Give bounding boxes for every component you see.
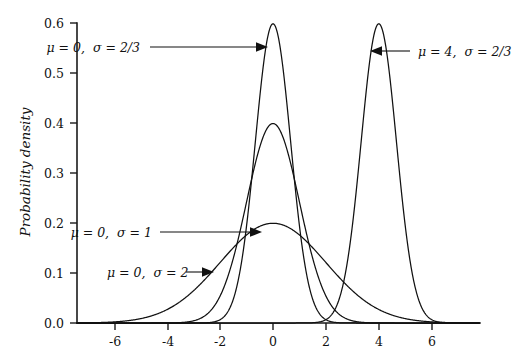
y-tick-label-0.1: 0.1 xyxy=(44,266,64,281)
annotation-label-mu0-sigma-2: μ = 0, σ = 2 xyxy=(107,265,188,280)
annotation-label-mu0-sigma-1: μ = 0, σ = 1 xyxy=(71,225,152,240)
annot-sigma-text-2: σ = 2/3 xyxy=(464,44,511,59)
annot-sigma-text-4: σ = 2 xyxy=(153,265,188,280)
annot-mu-text-3: μ = 0, xyxy=(71,225,109,240)
annotation-label-mu4-sigma-two-thirds: μ = 4, σ = 2/3 xyxy=(418,44,512,59)
annot-mu-text-1: μ = 0, xyxy=(46,40,84,55)
annot-mu-text-4: μ = 0, xyxy=(107,265,145,280)
y-tick-label-0.6: 0.6 xyxy=(44,16,64,31)
annot-sigma-text-1: σ = 2/3 xyxy=(93,40,140,55)
y-tick-label-0.4: 0.4 xyxy=(44,116,64,131)
annotation-label-mu0-sigma-two-thirds: μ = 0, σ = 2/3 xyxy=(46,40,140,55)
chart-svg: 0.6 0.5 0.4 0.3 0.2 0.1 0.0 Probability … xyxy=(0,0,514,358)
y-tick-label-0.3: 0.3 xyxy=(44,166,64,181)
x-tick-label--4: -4 xyxy=(162,334,174,349)
y-axis-title: Probability density xyxy=(17,107,33,237)
x-tick-label-0: 0 xyxy=(269,334,277,349)
normal-distribution-chart: 0.6 0.5 0.4 0.3 0.2 0.1 0.0 Probability … xyxy=(0,0,514,358)
x-tick-label--6: -6 xyxy=(109,334,121,349)
annot-sigma-text-3: σ = 1 xyxy=(117,225,152,240)
x-tick-label-6: 6 xyxy=(428,334,436,349)
y-tick-label-0.5: 0.5 xyxy=(44,66,64,81)
x-tick-label-2: 2 xyxy=(322,334,330,349)
annot-mu-text-2: μ = 4, xyxy=(418,44,456,59)
x-tick-label--2: -2 xyxy=(214,334,226,349)
y-tick-label-0.2: 0.2 xyxy=(44,216,64,231)
x-tick-label-4: 4 xyxy=(375,334,383,349)
y-tick-label-0.0: 0.0 xyxy=(44,316,64,331)
